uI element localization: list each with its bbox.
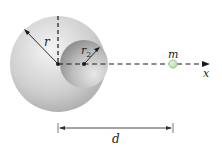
x-axis-label: x — [203, 67, 210, 80]
cavity-radius-label-subscript: 2 — [86, 50, 91, 59]
diagram-canvas: r r2 m x d — [0, 0, 222, 154]
d-right-arrowhead — [166, 126, 172, 130]
mass-particle — [169, 60, 177, 68]
d-left-arrowhead — [59, 126, 65, 130]
mass-label: m — [168, 48, 178, 61]
sphere-center-dot — [56, 62, 60, 66]
distance-label: d — [112, 132, 120, 146]
cavity-center-dot — [82, 62, 86, 66]
